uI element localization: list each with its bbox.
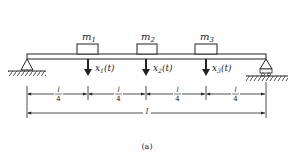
- svg-text:4: 4: [116, 95, 121, 103]
- svg-text:l: l: [117, 86, 119, 94]
- segment-labels: l 4 l 4 l 4 l 4: [54, 86, 240, 103]
- mass-3-label: m3: [200, 31, 214, 44]
- right-roller-support: [246, 59, 288, 81]
- mass-2: m2: [137, 31, 157, 54]
- displacement-arrow-3: x3(t): [202, 59, 232, 76]
- displacement-arrow-1: x1(t): [84, 59, 115, 76]
- beam-diagram: m1 m2 m3 x1(t) x2(t) x3(t): [0, 0, 294, 162]
- mass-1-label: m1: [82, 31, 96, 44]
- svg-text:x3(t): x3(t): [212, 63, 232, 74]
- mass-2-label: m2: [141, 31, 155, 44]
- svg-text:l: l: [146, 107, 149, 116]
- svg-text:l: l: [234, 86, 236, 94]
- svg-text:x1(t): x1(t): [95, 63, 115, 74]
- svg-text:4: 4: [233, 95, 238, 103]
- svg-text:l: l: [176, 86, 178, 94]
- svg-text:x2(t): x2(t): [153, 63, 173, 74]
- mass-1: m1: [77, 31, 98, 54]
- figure-caption: (a): [141, 142, 152, 151]
- mass-3: m3: [195, 31, 217, 54]
- svg-text:4: 4: [56, 95, 61, 103]
- svg-text:4: 4: [175, 95, 180, 103]
- displacement-arrow-2: x2(t): [142, 59, 173, 76]
- beam: [27, 54, 266, 59]
- svg-text:l: l: [57, 86, 59, 94]
- left-pinned-support: [8, 59, 46, 76]
- total-length-dimension: l: [28, 106, 265, 116]
